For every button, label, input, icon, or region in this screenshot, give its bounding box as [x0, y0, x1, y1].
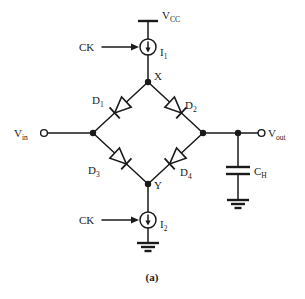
- label-ck-bottom: CK: [79, 214, 94, 226]
- circuit-schematic: VCC I1 CK X D1 D2 Vin Vout CH D3 D4 Y CK…: [0, 0, 305, 299]
- vout-branch-group: [200, 130, 265, 137]
- ck-bottom-group: [102, 217, 139, 224]
- label-i1: I1: [160, 46, 168, 61]
- node-left-dot: [90, 130, 96, 136]
- vcc-supply-group: [138, 21, 158, 39]
- label-d3: D3: [88, 164, 100, 179]
- current-source-i2-group: [140, 184, 156, 243]
- label-d1: D1: [92, 94, 104, 109]
- label-vout: Vout: [268, 127, 286, 142]
- label-d4: D4: [180, 166, 192, 181]
- label-ch: CH: [254, 165, 267, 180]
- vout-terminal[interactable]: [258, 130, 265, 137]
- ground-ch-group: [227, 200, 249, 208]
- ck-bottom-arrow-head: [131, 217, 139, 224]
- label-node-x: X: [154, 70, 162, 82]
- label-d2: D2: [185, 99, 197, 114]
- vin-branch-group: [41, 130, 97, 137]
- label-vin: Vin: [14, 127, 28, 142]
- label-ck-top: CK: [79, 41, 94, 53]
- capacitor-ch-group: [226, 133, 250, 200]
- ck-top-arrow-head: [131, 44, 139, 51]
- label-node-y: Y: [154, 179, 162, 191]
- ck-top-group: [102, 44, 139, 51]
- vin-terminal[interactable]: [41, 130, 48, 137]
- label-vcc: VCC: [162, 9, 180, 24]
- figure-caption: (a): [146, 271, 159, 284]
- label-i2: I2: [160, 218, 168, 233]
- figure-container: VCC I1 CK X D1 D2 Vin Vout CH D3 D4 Y CK…: [0, 0, 305, 299]
- ground-i2-group: [137, 243, 159, 251]
